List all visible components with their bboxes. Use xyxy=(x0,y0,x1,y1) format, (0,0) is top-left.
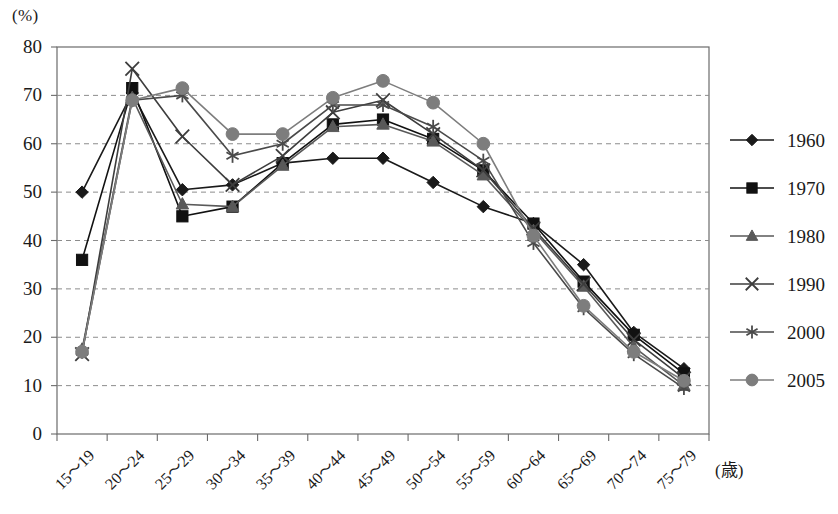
data-point-marker xyxy=(427,176,439,188)
data-point-marker xyxy=(747,183,757,193)
data-point-marker xyxy=(746,374,758,386)
chart-root: (%) 01020304050607080 15〜1920〜2425〜2930〜… xyxy=(0,0,838,514)
legend-marker-square-icon xyxy=(729,178,775,198)
series-1960 xyxy=(76,87,690,375)
data-point-marker xyxy=(76,254,87,265)
legend-label: 1990 xyxy=(787,275,825,294)
legend-label: 1970 xyxy=(787,179,825,198)
legend-item-2000[interactable]: 2000 xyxy=(729,322,825,342)
legend-label: 1980 xyxy=(787,227,825,246)
legend-marker-diamond-icon xyxy=(729,130,775,150)
series-line xyxy=(82,93,684,369)
legend-item-1960[interactable]: 1960 xyxy=(729,130,825,150)
legend-marker-cross-x-icon xyxy=(729,274,775,294)
data-point-marker xyxy=(577,299,590,312)
data-point-marker xyxy=(678,374,691,387)
series-2000 xyxy=(76,88,690,395)
data-point-marker xyxy=(177,211,188,222)
legend-label: 2000 xyxy=(787,323,825,342)
data-point-marker xyxy=(746,230,757,240)
legend-item-2005[interactable]: 2005 xyxy=(729,370,825,390)
series-line xyxy=(82,98,684,386)
data-point-marker xyxy=(326,91,339,104)
data-point-marker xyxy=(327,152,339,164)
legend-marker-circle-icon xyxy=(729,370,775,390)
data-point-marker xyxy=(477,200,489,212)
series-line xyxy=(82,95,684,388)
line-chart-plot-area xyxy=(0,0,838,514)
data-point-marker xyxy=(746,134,757,145)
data-point-marker xyxy=(627,345,640,358)
legend-item-1980[interactable]: 1980 xyxy=(729,226,825,246)
data-point-marker xyxy=(76,186,88,198)
legend-label: 2005 xyxy=(787,371,825,390)
data-point-marker xyxy=(176,82,189,95)
legend-marker-triangle-icon xyxy=(729,226,775,246)
data-point-marker xyxy=(176,130,190,144)
data-point-marker xyxy=(377,74,390,87)
data-point-marker xyxy=(377,152,389,164)
legend-label: 1960 xyxy=(787,131,825,150)
data-point-marker xyxy=(226,128,239,141)
data-point-marker xyxy=(126,94,139,107)
legend-item-1990[interactable]: 1990 xyxy=(729,274,825,294)
data-point-marker xyxy=(427,96,440,109)
legend-marker-asterisk-icon xyxy=(729,322,775,342)
data-point-marker xyxy=(276,128,289,141)
legend-item-1970[interactable]: 1970 xyxy=(729,178,825,198)
data-point-marker xyxy=(76,345,89,358)
data-point-marker xyxy=(527,229,540,242)
data-point-marker xyxy=(125,62,139,76)
data-point-marker xyxy=(477,137,490,150)
series-line xyxy=(82,88,684,373)
